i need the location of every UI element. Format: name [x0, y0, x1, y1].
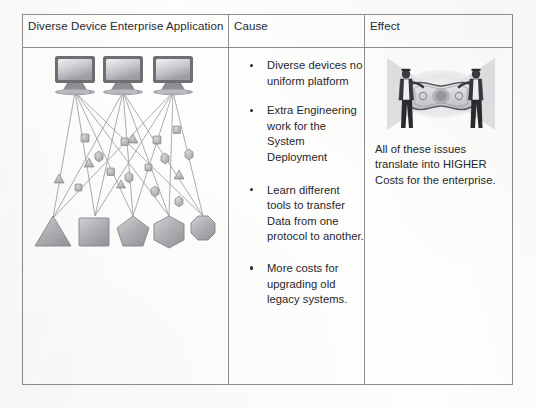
bullet-icon: [250, 266, 253, 269]
bullet-icon: [250, 188, 253, 191]
diagram-device-shapes: [35, 216, 215, 248]
device-square: [79, 218, 109, 246]
computer-2: [103, 56, 143, 95]
bullet-icon: [250, 64, 253, 67]
cause-bullet-text: Diverse devices no uniform platform: [267, 59, 362, 87]
computer-3: [153, 56, 193, 95]
effect-caption: All of these issues translate into HIGHE…: [375, 142, 508, 188]
cause-bullet-item: Extra Engineering work for the System De…: [229, 103, 364, 165]
cause-bullet-list: Diverse devices no uniform platform Extr…: [229, 48, 364, 251]
cause-bullet-item: Learn different tools to transfer Data f…: [229, 183, 364, 245]
cell-effect: All of these issues translate into HIGHE…: [365, 48, 514, 384]
cause-effect-table: Diverse Device Enterprise Application Ca…: [22, 14, 513, 385]
cell-cause: Diverse devices no uniform platform Extr…: [229, 48, 364, 384]
device-triangle: [35, 216, 71, 246]
computer-1: [55, 56, 95, 95]
cause-bullet-text: Learn different tools to transfer Data f…: [267, 184, 364, 243]
column-header-effect: Effect: [365, 15, 514, 34]
bullet-icon: [250, 109, 253, 112]
device-pentagon: [117, 216, 149, 246]
device-octagon: [191, 216, 215, 240]
diverse-device-network-diagram: [29, 50, 223, 250]
cause-bullet-item: More costs for upgrading old legacy syst…: [229, 261, 364, 308]
cause-bullet-text: More costs for upgrading old legacy syst…: [267, 262, 347, 305]
device-hexagon: [154, 216, 184, 248]
cause-bullet-text: Extra Engineering work for the System De…: [267, 104, 357, 163]
cell-application-diagram: [23, 48, 228, 384]
column-header-cause: Cause: [229, 15, 364, 34]
column-header-application: Diverse Device Enterprise Application: [23, 15, 228, 34]
stretched-dollar-bill-illustration: [387, 56, 495, 132]
cause-bullet-item: Diverse devices no uniform platform: [229, 58, 364, 89]
